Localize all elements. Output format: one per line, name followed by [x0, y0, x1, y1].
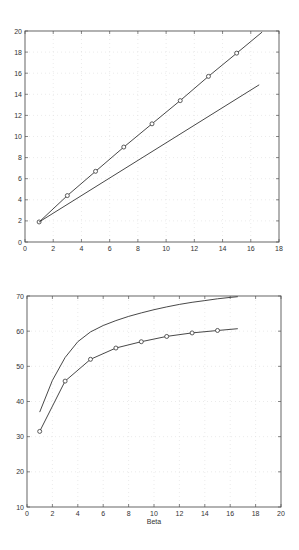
data-point-marker	[206, 74, 210, 78]
x-tick-label: 14	[201, 510, 209, 517]
y-tick-label: 40	[16, 398, 24, 405]
data-point-marker	[190, 331, 194, 335]
x-tick-label: 18	[275, 245, 283, 252]
x-tick-label: 20	[277, 510, 285, 517]
x-tick-label: 14	[219, 245, 227, 252]
data-series	[39, 85, 259, 222]
y-tick-label: 14	[14, 91, 22, 98]
y-tick-label: 18	[14, 49, 22, 56]
plot-frame	[27, 296, 281, 507]
y-tick-label: 0	[18, 239, 22, 246]
y-tick-label: 10	[14, 133, 22, 140]
y-tick-label: 16	[14, 70, 22, 77]
data-point-marker	[216, 328, 220, 332]
data-point-marker	[38, 429, 42, 433]
data-point-marker	[65, 194, 69, 198]
data-point-marker	[114, 346, 118, 350]
plot-frame	[25, 31, 279, 242]
x-tick-label: 0	[25, 510, 29, 517]
data-series	[37, 32, 262, 224]
y-tick-label: 30	[16, 433, 24, 440]
x-tick-label: 2	[51, 245, 55, 252]
x-tick-label: 2	[50, 510, 54, 517]
top-line-chart: 02468101214161802468101214161820	[14, 28, 283, 253]
grid	[25, 31, 279, 242]
y-tick-label: 20	[14, 28, 22, 35]
x-tick-label: 12	[190, 245, 198, 252]
x-axis-label: Beta	[147, 518, 162, 525]
data-point-marker	[178, 99, 182, 103]
data-point-marker	[235, 51, 239, 55]
data-point-marker	[122, 145, 126, 149]
y-tick-label: 2	[18, 217, 22, 224]
data-point-marker	[139, 340, 143, 344]
y-tick-label: 70	[16, 293, 24, 300]
x-tick-label: 6	[108, 245, 112, 252]
data-series	[38, 328, 238, 433]
y-tick-label: 60	[16, 328, 24, 335]
x-tick-label: 10	[150, 510, 158, 517]
figure: 02468101214161802468101214161820 0246810…	[0, 0, 299, 550]
x-tick-label: 8	[127, 510, 131, 517]
data-series	[40, 297, 238, 412]
y-tick-label: 12	[14, 112, 22, 119]
x-tick-label: 16	[226, 510, 234, 517]
data-point-marker	[89, 357, 93, 361]
data-point-marker	[150, 122, 154, 126]
y-tick-label: 50	[16, 363, 24, 370]
y-tick-label: 20	[16, 468, 24, 475]
x-tick-label: 10	[162, 245, 170, 252]
y-tick-label: 10	[16, 504, 24, 511]
x-tick-label: 4	[79, 245, 83, 252]
x-tick-label: 6	[101, 510, 105, 517]
y-tick-label: 4	[18, 196, 22, 203]
x-tick-label: 0	[23, 245, 27, 252]
x-axis: 02468101214161820	[25, 296, 285, 517]
bottom-line-chart: 0246810121416182010203040506070Beta	[16, 293, 285, 526]
x-tick-label: 12	[176, 510, 184, 517]
y-tick-label: 6	[18, 175, 22, 182]
data-point-marker	[63, 379, 67, 383]
y-tick-label: 8	[18, 154, 22, 161]
grid	[27, 296, 281, 507]
data-point-marker	[94, 169, 98, 173]
x-tick-label: 18	[252, 510, 260, 517]
data-point-marker	[165, 334, 169, 338]
x-tick-label: 4	[76, 510, 80, 517]
x-tick-label: 16	[247, 245, 255, 252]
x-tick-label: 8	[136, 245, 140, 252]
x-axis: 024681012141618	[23, 31, 283, 252]
